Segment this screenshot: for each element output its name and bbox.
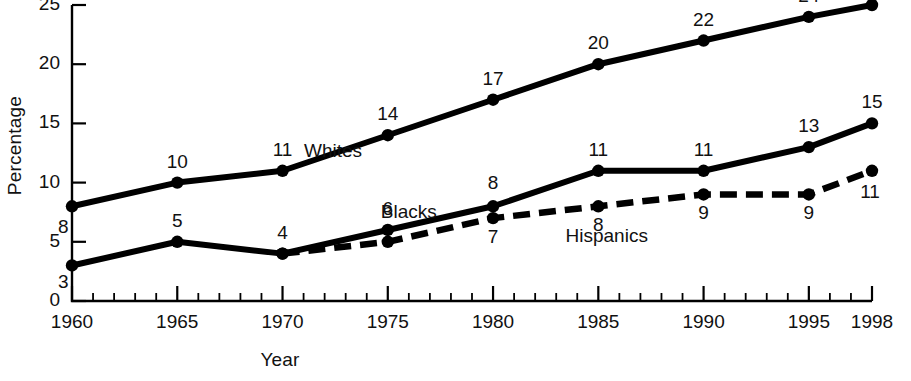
x-tick-label: 1990: [664, 311, 744, 333]
series-label-whites: Whites: [278, 140, 388, 162]
x-axis-title: Year: [0, 349, 560, 371]
point-value-label: 17: [453, 68, 533, 90]
data-point: [487, 94, 499, 106]
data-point: [803, 141, 815, 153]
data-point: [592, 58, 604, 70]
y-tick-label: 10: [22, 171, 60, 193]
data-point: [803, 188, 815, 200]
data-point: [171, 236, 183, 248]
x-tick-label: 1980: [453, 311, 533, 333]
x-tick-label: 1960: [32, 311, 112, 333]
point-value-label: 7: [453, 226, 533, 248]
data-point: [866, 165, 878, 177]
data-point: [697, 34, 709, 46]
data-point: [866, 117, 878, 129]
data-point: [382, 236, 394, 248]
point-value-label: 3: [58, 271, 69, 293]
data-point: [171, 176, 183, 188]
data-point: [276, 165, 288, 177]
point-value-label: 5: [137, 210, 217, 232]
figure-line-chart: Percentage Year 0510152025 1960196519701…: [0, 0, 911, 381]
point-value-label: 11: [830, 181, 910, 203]
point-value-label: 4: [243, 222, 323, 244]
point-value-label: 10: [137, 151, 217, 173]
data-point: [697, 188, 709, 200]
data-point: [803, 11, 815, 23]
point-value-label: 9: [664, 202, 744, 224]
x-tick-label: 1975: [348, 311, 428, 333]
point-value-label: 11: [664, 139, 744, 161]
point-value-label: 11: [558, 139, 638, 161]
point-value-label: 20: [558, 32, 638, 54]
point-value-label: 9: [769, 202, 849, 224]
series-label-hispanics: Hispanics: [552, 225, 662, 247]
x-tick-label: 1998: [832, 311, 911, 333]
y-tick-label: 0: [22, 289, 60, 311]
data-point: [592, 165, 604, 177]
data-point: [487, 212, 499, 224]
data-point: [66, 259, 78, 271]
y-tick-label: 15: [22, 111, 60, 133]
y-tick-label: 20: [22, 52, 60, 74]
data-point: [487, 200, 499, 212]
x-tick-label: 1985: [558, 311, 638, 333]
data-point: [276, 247, 288, 259]
point-value-label: 15: [832, 91, 911, 113]
y-tick-label: 5: [22, 230, 60, 252]
y-tick-label: 25: [22, 0, 60, 15]
point-value-label: 22: [664, 9, 744, 31]
point-value-label: 14: [348, 103, 428, 125]
x-tick-label: 1965: [137, 311, 217, 333]
data-point: [592, 200, 604, 212]
data-point: [382, 224, 394, 236]
series-label-blacks: Blacks: [354, 201, 464, 223]
point-value-label: 24: [769, 0, 849, 7]
point-value-label: 8: [453, 172, 533, 194]
point-value-label: 8: [58, 216, 69, 238]
data-point: [66, 200, 78, 212]
x-tick-label: 1970: [243, 311, 323, 333]
point-value-label: 13: [769, 115, 849, 137]
data-point: [697, 165, 709, 177]
data-point: [866, 0, 878, 11]
